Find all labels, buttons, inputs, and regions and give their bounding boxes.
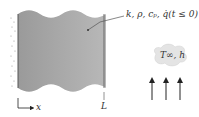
x-axis [18,98,32,108]
flow-arrows [152,80,180,100]
wall-properties-label: k, ρ, cₚ, q̇(t ≤ 0) [126,9,198,19]
thickness-label: L [101,101,107,111]
insulation-dots [10,17,15,86]
convection-label: T∞, h [160,50,185,60]
axis-label: x [36,102,41,112]
plane-wall [18,10,106,92]
